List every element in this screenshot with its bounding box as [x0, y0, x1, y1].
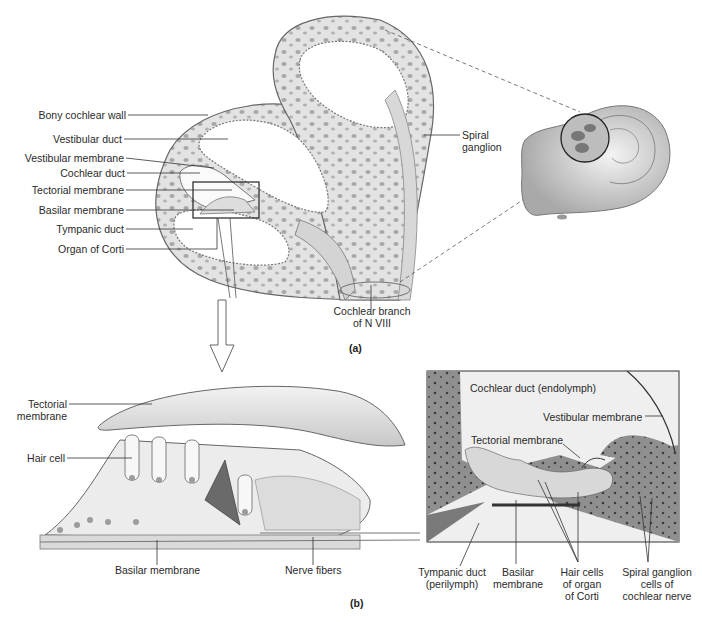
panel-label-b: (b)	[350, 597, 363, 609]
label-nerve-fibers: Nerve fibers	[285, 564, 342, 576]
label-vestibular-membrane-b: Vestibular membrane	[543, 411, 642, 423]
label-vestibular-duct: Vestibular duct	[20, 133, 122, 145]
label-hair-cell: Hair cell	[5, 452, 65, 464]
label-tectorial-membrane: Tectorial membrane	[10, 184, 124, 196]
label-tympanic-duct-perilymph: Tympanic duct (perilymph)	[412, 566, 492, 590]
label-tectorial-membrane-b: Tectorial membrane	[5, 398, 67, 422]
cochlea-snail-shell	[522, 106, 670, 220]
organ-of-corti-drawing	[40, 386, 420, 549]
label-cochlear-duct-endolymph: Cochlear duct (endolymph)	[470, 382, 596, 394]
label-basilar-membrane-b: Basilar membrane	[115, 564, 200, 576]
label-organ-of-corti: Organ of Corti	[10, 243, 124, 255]
label-basilar-membrane: Basilar membrane	[10, 204, 124, 216]
label-tectorial-membrane-micro: Tectorial membrane	[471, 434, 563, 446]
label-hair-cells-organ-of-corti: Hair cells of organ of Corti	[552, 566, 612, 602]
label-vestibular-membrane: Vestibular membrane	[10, 152, 124, 164]
zoom-arrow-icon	[210, 300, 234, 372]
label-spiral-ganglion: Spiral ganglion	[462, 129, 502, 153]
label-cochlear-duct: Cochlear duct	[10, 167, 125, 179]
cochlea-cross-section	[156, 16, 434, 300]
label-tympanic-duct: Tympanic duct	[10, 223, 124, 235]
panel-label-a: (a)	[349, 342, 362, 354]
micrograph	[427, 371, 679, 542]
label-bony-cochlear-wall: Bony cochlear wall	[20, 109, 126, 121]
label-cochlear-branch-n-viii: Cochlear branch of N VIII	[330, 305, 414, 329]
label-spiral-ganglion-cells: Spiral ganglion cells of cochlear nerve	[614, 566, 700, 602]
label-basilar-membrane-micro: Basilar membrane	[490, 566, 546, 590]
